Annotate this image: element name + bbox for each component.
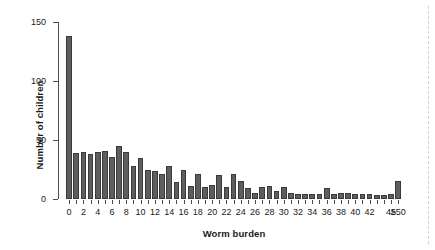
x-tick [334,200,335,204]
page-edge-rule [428,6,429,244]
bar [102,151,108,199]
x-tick-label: 8 [124,207,129,217]
x-tick [269,200,270,204]
x-tick-label: 42 [365,207,375,217]
bar [216,175,222,199]
bar [209,185,215,199]
x-tick-label: 32 [293,207,303,217]
x-tick [341,200,342,204]
x-tick-label: 4 [95,207,100,217]
x-tick-label: 36 [322,207,332,217]
x-tick [362,200,363,204]
x-tick [155,200,156,204]
x-tick [105,200,106,204]
x-tick-label: 38 [336,207,346,217]
y-tick-label: 150 [31,17,46,27]
x-tick-label: 18 [193,207,203,217]
x-tick [284,200,285,204]
x-tick-label: 0 [67,207,72,217]
x-tick [398,200,399,204]
x-tick [384,200,385,204]
bar [138,158,144,199]
bar [231,174,237,199]
x-tick-label: 20 [207,207,217,217]
bar [295,194,301,199]
bar [345,193,351,199]
x-tick [319,200,320,204]
bar [338,193,344,199]
x-tick [298,200,299,204]
bar [181,170,187,200]
x-tick [83,200,84,204]
bar [388,194,394,199]
bar [360,194,366,199]
x-tick [162,200,163,204]
x-tick [76,200,77,204]
x-tick [255,200,256,204]
x-tick-label: 2 [81,207,86,217]
bar [174,182,180,199]
x-tick [198,200,199,204]
x-tick [98,200,99,204]
bar [267,186,273,199]
bar [195,174,201,199]
plot-area: 050100150 024681012141618202224262830323… [58,18,410,203]
x-tick [348,200,349,204]
bar [202,187,208,199]
x-tick [262,200,263,204]
x-tick-label: 30 [279,207,289,217]
x-tick-label: 14 [164,207,174,217]
bar [88,154,94,199]
x-tick-label: 6 [110,207,115,217]
x-tick [212,200,213,204]
x-tick [219,200,220,204]
x-tick [133,200,134,204]
x-tick-label: ≥50 [391,207,406,217]
bar [374,195,380,199]
x-tick [226,200,227,204]
x-tick [184,200,185,204]
bar [281,187,287,199]
x-tick [305,200,306,204]
x-tick-label: 12 [150,207,160,217]
x-tick-label: 26 [250,207,260,217]
y-axis-spine [58,22,59,199]
x-tick [112,200,113,204]
bar [159,174,165,199]
x-tick [312,200,313,204]
x-axis-title: Worm burden [58,228,410,239]
bar [288,193,294,199]
y-axis-title: Number of children [26,0,52,250]
bar [73,153,79,199]
x-tick [234,200,235,204]
x-tick-label: 34 [307,207,317,217]
x-tick [355,200,356,204]
bar [188,186,194,199]
x-tick [91,200,92,204]
x-tick [169,200,170,204]
bar [252,193,258,199]
histogram-figure: Number of children Worm burden 050100150… [0,0,435,250]
bar [317,194,323,199]
bar [152,171,158,199]
x-tick [148,200,149,204]
x-tick [370,200,371,204]
bar [381,195,387,199]
y-tick-label: 50 [36,135,46,145]
x-tick-label: 40 [350,207,360,217]
bar [224,187,230,199]
x-tick [205,200,206,204]
y-tick: 100 [53,81,58,82]
y-tick: 150 [53,22,58,23]
y-tick: 50 [53,140,58,141]
x-tick-label: 10 [136,207,146,217]
bar [352,194,358,199]
bar [109,157,115,199]
y-tick-label: 100 [31,76,46,86]
x-tick [391,200,392,204]
x-tick [191,200,192,204]
x-tick [277,200,278,204]
x-tick-label: 24 [236,207,246,217]
bar [331,194,337,199]
y-tick-label: 0 [41,194,46,204]
